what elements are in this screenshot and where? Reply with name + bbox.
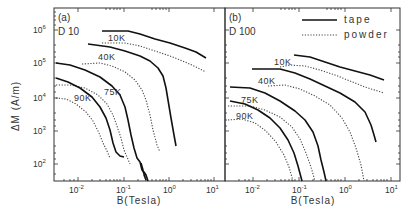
panel-a-label-75k: 75K [104,87,122,97]
panel-b-x-tick-labels: 10-2 10-1 100 101 [245,184,398,195]
panel-a-label-90k: 90K [74,93,92,103]
legend-powder-label: powder [344,29,389,40]
panel-a-curves [56,31,206,181]
panel-a-noise-tail [141,163,146,180]
panel-a-tape-75k [56,63,148,181]
svg-text:101: 101 [206,184,219,195]
svg-text:103: 103 [33,125,46,136]
svg-text:100: 100 [339,184,352,195]
panel-b-label-90k: 90K [236,111,254,121]
panel-a-powder-10k [102,43,206,72]
panel-b: 10-2 10-1 100 101 B(Tesla) (b) D 100 tap… [225,8,400,206]
svg-text:105: 105 [33,57,46,68]
legend-tape-label: tape [344,14,371,25]
panel-a-x-axis-label: B(Tesla) [117,195,162,206]
panel-b-temperature-labels: 10K 40K 75K 90K [236,57,292,121]
panel-b-label-10k: 10K [274,57,292,67]
panel-b-label-40k: 40K [258,76,276,86]
panel-a-label-10k: 10K [108,33,126,43]
figure: ΔM (A/m) 106 105 104 103 102 [0,0,404,209]
panel-b-x-axis-label: B(Tesla) [291,195,336,206]
svg-text:106: 106 [33,24,46,35]
svg-text:10-1: 10-1 [116,184,131,195]
panel-a: 10-2 10-1 100 101 B(Tesla) (a) D 10 10 [54,8,225,206]
panel-a-powder-90k [56,98,110,158]
y-axis-label: ΔM (A/m) [10,81,21,131]
svg-text:10-1: 10-1 [292,184,307,195]
panel-a-x-tick-labels: 10-2 10-1 100 101 [69,184,219,195]
panel-b-tag: (b) [229,12,241,23]
panel-b-tape-10k [294,55,384,80]
panel-b-sample-label: D 100 [229,26,256,37]
panel-b-powder-90k [228,119,293,181]
legend: tape powder [302,14,389,40]
panel-a-tag: (a) [58,12,70,23]
svg-text:102: 102 [33,158,46,169]
panel-b-label-75k: 75K [241,95,259,105]
panel-a-label-40k: 40K [98,52,116,62]
panel-a-temperature-labels: 10K 40K 75K 90K [74,33,126,103]
svg-text:10-2: 10-2 [245,184,260,195]
y-tick-labels: 106 105 104 103 102 [33,24,46,169]
svg-text:10-2: 10-2 [69,184,84,195]
svg-text:101: 101 [385,184,398,195]
svg-text:100: 100 [163,184,176,195]
panel-a-sample-label: D 10 [58,26,80,37]
panel-a-powder-40k [82,63,160,152]
svg-text:104: 104 [33,92,46,103]
